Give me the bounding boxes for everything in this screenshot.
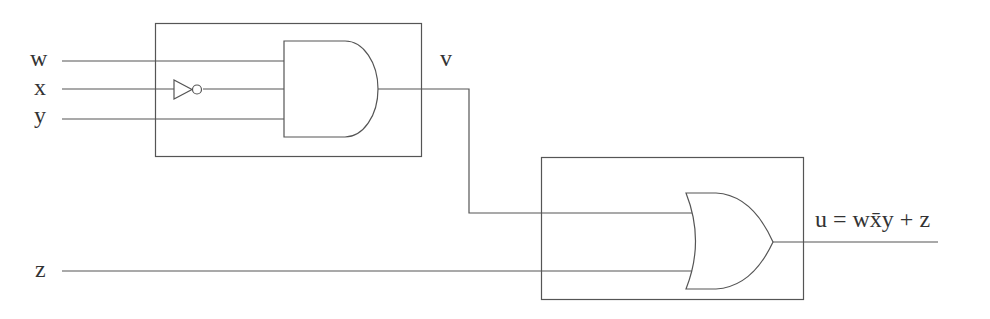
output-label-u: u = wx̄y + z: [815, 207, 930, 231]
and-gate-icon: [284, 41, 378, 137]
not-gate-icon: [174, 80, 202, 99]
logic-circuit-diagram: w x y z v u = wx̄y + z: [0, 0, 990, 319]
input-label-y: y: [34, 103, 46, 127]
circuit-svg: [0, 0, 990, 319]
input-label-z: z: [35, 257, 46, 281]
v-wire: [378, 89, 693, 213]
intermediate-label-v: v: [440, 46, 452, 70]
input-label-w: w: [30, 46, 47, 70]
input-label-x: x: [34, 75, 46, 99]
or-gate-icon: [686, 193, 773, 289]
